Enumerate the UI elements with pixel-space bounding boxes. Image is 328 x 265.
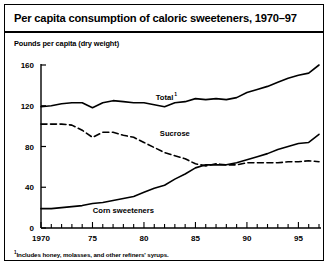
line-chart-svg: 04080120160 19707580859095 Total Total1S… [5, 5, 324, 261]
footnote: 1Includes honey, molasses, and other ref… [14, 251, 169, 258]
series-labels: Total Total1SucroseSucroseCorn sweetener… [93, 91, 190, 215]
series-label-sucrose: Sucrose [160, 129, 190, 138]
y-tick-label: 40 [25, 183, 34, 192]
y-tick-label: 0 [30, 224, 35, 233]
y-tick-label: 80 [25, 143, 34, 152]
series-line-total [41, 65, 319, 108]
series-label-corn-sweeteners: Corn sweeteners [93, 206, 154, 215]
plot-area: 04080120160 19707580859095 Total Total1S… [5, 5, 324, 261]
x-tick-label: 80 [140, 234, 149, 243]
x-tick-label: 85 [191, 234, 200, 243]
axes [41, 64, 321, 228]
x-tick-label: 1970 [32, 234, 50, 243]
chart-figure: Per capita consumption of caloric sweete… [4, 4, 324, 261]
x-tick-labels: 19707580859095 [32, 234, 303, 243]
y-tick-label: 120 [21, 102, 35, 111]
y-tick-label: 160 [21, 61, 35, 70]
x-tick-label: 90 [242, 234, 251, 243]
series-line-corn-sweeteners [41, 134, 319, 208]
footnote-text: Includes honey, molasses, and other refi… [16, 251, 168, 258]
x-tick-label: 95 [294, 234, 303, 243]
series-label-total: Total [156, 93, 174, 102]
series-label-superscript: 1 [174, 91, 177, 97]
y-tick-labels: 04080120160 [21, 61, 35, 233]
tick-marks [41, 65, 319, 228]
x-tick-label: 75 [88, 234, 97, 243]
